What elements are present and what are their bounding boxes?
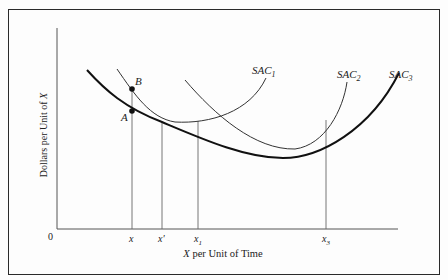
tick-x: x (128, 233, 134, 244)
tick-x1: x1 (193, 233, 202, 247)
x-axis-title: X per Unit of Time (182, 248, 263, 259)
sac2-label: SAC2 (337, 68, 361, 83)
sac2-curve (185, 80, 347, 149)
point-a-label: A (120, 111, 128, 123)
tick-xprime: x' (157, 233, 165, 244)
point-b-label: B (135, 75, 142, 87)
sac3-label: SAC3 (389, 68, 413, 83)
point-a (129, 108, 135, 114)
sac1-label: SAC1 (252, 64, 276, 79)
tick-x3: x3 (321, 233, 330, 247)
chart-plot: B A SAC1 SAC2 SAC3 0 x x' x1 x3 X per Un… (0, 0, 448, 280)
y-axis-title: Dollars per Unit of X (38, 92, 49, 177)
sac-thick-curve (87, 70, 399, 158)
point-b (129, 86, 135, 92)
origin-label: 0 (48, 231, 53, 242)
